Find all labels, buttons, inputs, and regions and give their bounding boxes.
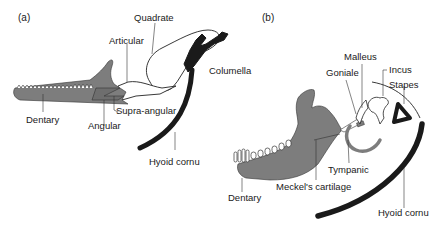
label-quadrate: Quadrate (134, 13, 174, 23)
label-malleus: Malleus (344, 52, 377, 62)
jaw-ear-evolution-figure: (a) Quadrate Articular Columella Supra-a… (0, 0, 442, 226)
quadrate-bone (146, 30, 219, 91)
label-tympanic: Tympanic (328, 165, 369, 175)
label-dentary-a: Dentary (26, 115, 59, 125)
label-columella: Columella (209, 66, 251, 76)
label-dentary-b: Dentary (228, 193, 261, 203)
panel-b-label: (b) (262, 13, 274, 23)
stapes-bone (394, 104, 410, 122)
label-goniale: Goniale (326, 68, 359, 78)
dentary-bone-b (237, 89, 342, 180)
tympanic-bone (347, 126, 380, 151)
incus-bone (368, 97, 388, 124)
label-hyoid-cornu-a: Hyoid cornu (149, 157, 200, 167)
label-angular: Angular (88, 121, 121, 131)
label-meckels-cartilage: Meckel's cartilage (276, 182, 351, 192)
label-articular: Articular (109, 36, 144, 46)
diagram-drawing (0, 0, 442, 226)
label-hyoid-cornu-b: Hyoid cornu (378, 208, 429, 218)
label-incus: Incus (389, 65, 412, 75)
label-stapes: Stapes (389, 80, 419, 90)
panel-a-label: (a) (18, 13, 30, 23)
label-supra-angular: Supra-angular (116, 106, 176, 116)
